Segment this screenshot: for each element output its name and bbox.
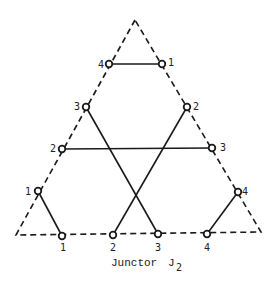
label-left-1: 1	[25, 186, 31, 197]
node-bottom-4	[204, 231, 211, 238]
edge-right4-bottom4	[207, 192, 238, 234]
node-bottom-2	[110, 232, 117, 239]
edge-left3-bottom3	[86, 107, 158, 234]
label-right-2: 2	[193, 101, 199, 112]
node-bottom-3	[155, 231, 162, 238]
label-right-4: 4	[242, 186, 248, 197]
label-bottom-3: 3	[155, 242, 161, 253]
node-left-1	[35, 188, 42, 195]
edge-right2-bottom2	[113, 107, 187, 235]
node-right-3	[209, 145, 216, 152]
edge-left1-bottom1	[38, 191, 62, 236]
label-left-3: 3	[74, 101, 80, 112]
node-bottom-1	[59, 233, 66, 240]
junctor-nodes	[35, 61, 242, 240]
node-left-2	[59, 146, 66, 153]
caption-j: J	[168, 257, 175, 269]
caption-subscript: 2	[176, 262, 182, 273]
label-bottom-2: 2	[110, 242, 116, 253]
node-right-4	[235, 189, 242, 196]
edge-left2-right3	[62, 148, 212, 149]
node-top-4	[106, 61, 113, 68]
label-left-2: 2	[50, 143, 56, 154]
label-right-3: 3	[220, 142, 226, 153]
caption-junctor: Junctor	[111, 257, 157, 269]
junctor-diagram: 4 1 3 2 2 3 1 4 1 2 3 4 Junctor J 2	[0, 0, 277, 281]
node-top-1	[159, 61, 166, 68]
node-left-3	[83, 104, 90, 111]
dashed-triangle-outline	[16, 20, 261, 235]
junctor-edges	[38, 64, 238, 236]
label-bottom-4: 4	[204, 242, 210, 253]
label-top-1: 1	[168, 57, 174, 68]
node-right-2	[184, 104, 191, 111]
label-bottom-1: 1	[60, 242, 66, 253]
label-top-4: 4	[98, 59, 104, 70]
